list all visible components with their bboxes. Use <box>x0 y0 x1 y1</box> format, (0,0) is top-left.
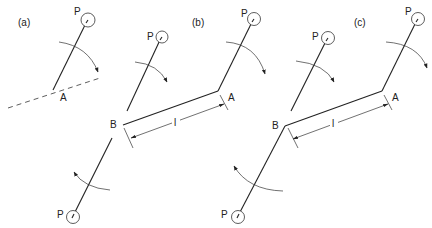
panel-a: (a) P A <box>8 6 100 108</box>
point-p-label: P <box>74 6 81 17</box>
point-p-label: P <box>405 6 412 17</box>
panel-c-label: (c) <box>354 17 366 28</box>
rod-upper-left <box>127 40 160 111</box>
point-a-label: A <box>60 92 67 103</box>
point-p-label: P <box>312 31 319 42</box>
counterclockwise-arrow-icon <box>234 166 283 191</box>
dimension-l-label: l <box>332 118 334 129</box>
clockwise-arrow-icon <box>135 62 167 82</box>
dimension-l-label: l <box>174 117 176 128</box>
panel-c: (c) P P A B l P <box>221 6 427 224</box>
extension-line-a <box>384 95 392 110</box>
reference-dashed-line <box>8 78 100 108</box>
clockwise-arrow-icon <box>59 42 98 72</box>
point-b-label: B <box>272 120 279 131</box>
point-b-label: B <box>110 119 117 130</box>
point-p-label: P <box>221 209 228 220</box>
rod-lower <box>239 126 285 214</box>
extension-line-a <box>220 95 228 110</box>
point-p-label: P <box>57 209 64 220</box>
rod-lower <box>74 138 112 214</box>
clockwise-arrow-icon <box>226 42 265 74</box>
panel-b-label: (b) <box>192 17 204 28</box>
rod-pa <box>53 23 86 90</box>
dimension-line-l <box>293 104 388 139</box>
rod-upper-right <box>218 22 252 91</box>
link-ab <box>123 91 218 125</box>
clockwise-arrow-icon <box>386 42 427 68</box>
rod-upper-right <box>382 22 416 91</box>
panel-a-label: (a) <box>18 17 30 28</box>
point-p-label: P <box>147 31 154 42</box>
counterclockwise-arrow-icon <box>74 172 110 190</box>
point-a-label: A <box>228 92 235 103</box>
panel-b: (b) P P A B l P <box>57 8 265 224</box>
rod-rotation-diagram: (a) P A (b) P P A B l <box>0 0 432 228</box>
point-p-label: P <box>241 8 248 19</box>
rod-upper-left <box>291 41 326 111</box>
point-a-label: A <box>392 92 399 103</box>
